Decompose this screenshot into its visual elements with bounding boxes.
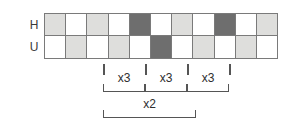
bracket-x2: [103, 110, 196, 118]
bracket-x3-second: [145, 84, 187, 92]
bracket-x3-second-label: x3: [145, 71, 187, 85]
bracket-x3-third-label: x3: [187, 71, 229, 85]
sequence-diagram: H U x3x3x3x2: [0, 0, 297, 127]
bracket-x2-label: x2: [103, 97, 196, 111]
bracket-annotations: x3x3x3x2: [0, 0, 297, 127]
bracket-x3-third: [187, 84, 229, 92]
tick-4: [229, 64, 231, 75]
bracket-x3-first-label: x3: [103, 71, 145, 85]
bracket-x3-first: [103, 84, 145, 92]
